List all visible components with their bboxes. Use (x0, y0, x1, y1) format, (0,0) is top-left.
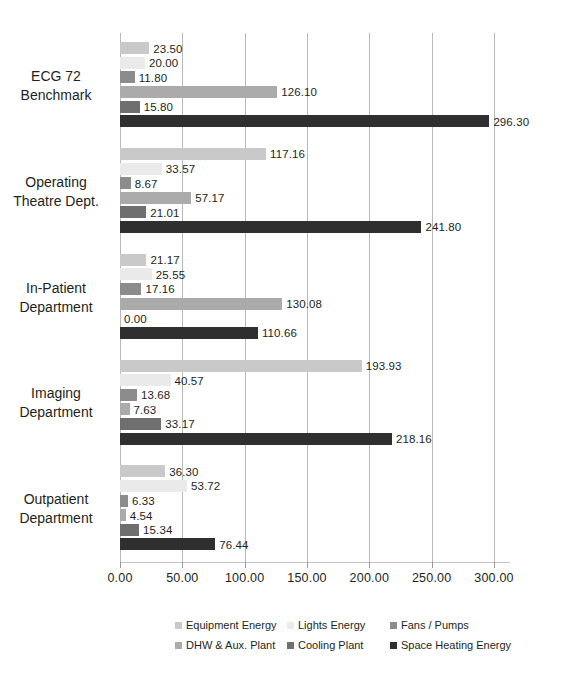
bar-value-label: 8.67 (135, 178, 158, 190)
bar (120, 298, 282, 310)
bar-value-label: 11.80 (139, 72, 167, 84)
gridline (494, 33, 495, 562)
bar (120, 374, 171, 386)
x-tick (182, 562, 183, 568)
x-tick (120, 562, 121, 568)
bar-value-label: 21.01 (150, 207, 179, 219)
bar (120, 389, 137, 401)
bar-value-label: 296.30 (493, 116, 529, 128)
bar-value-label: 21.17 (150, 254, 179, 266)
x-tick-label: 200.00 (334, 571, 404, 585)
x-tick (369, 562, 370, 568)
category-label: OutpatientDepartment (0, 490, 112, 528)
bar-value-label: 6.33 (132, 495, 155, 507)
x-tick (494, 562, 495, 568)
bar (120, 509, 126, 521)
x-tick (307, 562, 308, 568)
bar (120, 403, 130, 415)
bar-value-label: 17.16 (145, 283, 174, 295)
legend-label: DHW & Aux. Plant (186, 639, 275, 651)
category-label: In-PatientDepartment (0, 279, 112, 317)
bar (120, 71, 135, 83)
bar (120, 206, 146, 218)
category-label: OperatingTheatre Dept. (0, 173, 112, 211)
legend-label: Fans / Pumps (401, 619, 469, 631)
bar-value-label: 193.93 (366, 360, 402, 372)
bar-value-label: 110.66 (262, 327, 297, 339)
bar (120, 538, 215, 550)
bar (120, 57, 145, 69)
category-label-line: Outpatient (0, 490, 112, 509)
bar (120, 480, 187, 492)
legend-label: Equipment Energy (186, 619, 277, 631)
bar-value-label: 25.55 (156, 269, 185, 281)
legend-row: DHW & Aux. PlantCooling PlantSpace Heati… (175, 635, 535, 655)
bar-value-label: 20.00 (149, 57, 178, 69)
x-tick (245, 562, 246, 568)
legend-item[interactable]: Space Heating Energy (390, 639, 511, 651)
legend-item[interactable]: Equipment Energy (175, 619, 277, 631)
x-tick-label: 150.00 (272, 571, 342, 585)
bar (120, 268, 152, 280)
legend-swatch-icon (175, 642, 182, 649)
bar-value-label: 23.50 (153, 43, 182, 55)
x-tick-label: 0.00 (85, 571, 155, 585)
bar-value-label: 126.10 (281, 86, 317, 98)
legend-item[interactable]: Fans / Pumps (390, 619, 469, 631)
legend-item[interactable]: Cooling Plant (287, 639, 363, 651)
bar-value-label: 33.57 (166, 163, 195, 175)
bar-value-label: 33.17 (165, 418, 194, 430)
legend-swatch-icon (175, 622, 182, 629)
bar-value-label: 36.30 (169, 466, 198, 478)
bar-value-label: 13.68 (141, 389, 170, 401)
bar-value-label: 130.08 (286, 298, 322, 310)
bar (120, 221, 421, 233)
bar-value-label: 76.44 (219, 539, 248, 551)
bar-value-label: 0.00 (124, 313, 147, 325)
legend-label: Cooling Plant (298, 639, 363, 651)
category-label-line: Benchmark (0, 86, 112, 105)
x-tick-label: 50.00 (147, 571, 217, 585)
plot-area: 23.5020.0011.80126.1015.80296.30117.1633… (120, 33, 494, 562)
category-label-line: ECG 72 (0, 67, 112, 86)
bar (120, 254, 146, 266)
gridline (369, 33, 370, 562)
category-label: ECG 72Benchmark (0, 67, 112, 105)
bar (120, 86, 277, 98)
bar (120, 115, 489, 127)
bar (120, 360, 362, 372)
bar (120, 192, 191, 204)
bar (120, 418, 161, 430)
bar-value-label: 15.80 (144, 101, 173, 113)
bar-value-label: 218.16 (396, 433, 432, 445)
bar (120, 177, 131, 189)
category-label-line: Department (0, 298, 112, 317)
bar (120, 495, 128, 507)
bar (120, 148, 266, 160)
bar-value-label: 53.72 (191, 480, 220, 492)
legend-item[interactable]: Lights Energy (287, 619, 365, 631)
bar (120, 163, 162, 175)
bar-value-label: 241.80 (425, 221, 461, 233)
bar-value-label: 4.54 (130, 510, 153, 522)
gridline (432, 33, 433, 562)
category-label-line: In-Patient (0, 279, 112, 298)
x-tick-label: 250.00 (397, 571, 467, 585)
legend-swatch-icon (390, 622, 397, 629)
x-tick-label: 100.00 (210, 571, 280, 585)
bar-chart: 23.5020.0011.80126.1015.80296.30117.1633… (0, 0, 561, 677)
bar (120, 101, 140, 113)
category-label-line: Operating (0, 173, 112, 192)
bar-value-label: 57.17 (195, 192, 224, 204)
category-label: ImagingDepartment (0, 384, 112, 422)
legend-swatch-icon (390, 642, 397, 649)
legend-item[interactable]: DHW & Aux. Plant (175, 639, 275, 651)
category-label-line: Theatre Dept. (0, 192, 112, 211)
legend-swatch-icon (287, 642, 294, 649)
bar-value-label: 7.63 (134, 404, 157, 416)
legend-swatch-icon (287, 622, 294, 629)
category-label-line: Department (0, 509, 112, 528)
x-tick-label: 300.00 (459, 571, 529, 585)
chart-legend: Equipment EnergyLights EnergyFans / Pump… (175, 615, 535, 655)
bar-value-label: 40.57 (175, 375, 204, 387)
